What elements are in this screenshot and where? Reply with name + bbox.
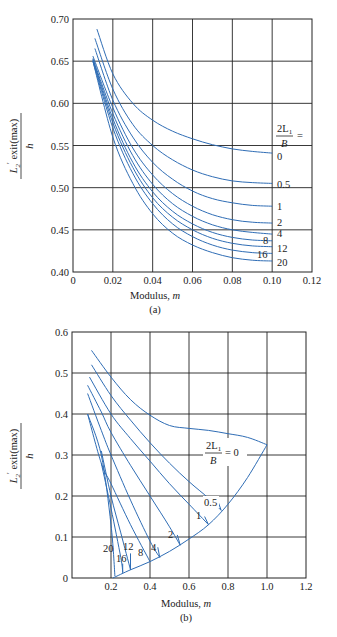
curve-1 [90,377,209,525]
svg-text:L2′ exit(max): L2′ exit(max) [6,428,22,484]
y-tick-label: 0 [63,573,68,584]
curve-label: 4 [151,542,157,553]
x-tick-label: 0.4 [143,581,157,592]
curve-label: 20 [277,257,288,268]
svg-text:= 0: = 0 [225,447,239,458]
y-tick-label: 0.5 [55,368,68,379]
curve-label: 4 [277,228,283,239]
curve-label: 0 [277,151,282,162]
figure: 00.020.040.060.080.100.120.400.450.500.5… [0,0,337,637]
y-tick-label: 0.1 [55,532,68,543]
curve-0 [92,350,268,444]
y-tick-label: 0.65 [51,56,69,67]
y-tick-label: 0.70 [51,14,69,25]
curve-0 [97,29,272,153]
curve-label: 16 [257,249,268,260]
svg-text:2L1: 2L1 [277,123,293,136]
chart-b-caption: (b) [180,612,193,624]
curve-label: 1 [196,510,201,521]
y-tick-label: 0.40 [51,267,69,278]
x-tick-label: 0.06 [183,275,201,286]
y-tick-label: 0.3 [55,450,68,461]
chart-a: 00.020.040.060.080.100.120.400.450.500.5… [6,14,321,316]
x-tick-label: 0.2 [104,581,117,592]
x-tick-label: 0 [70,275,75,286]
svg-text:B: B [210,455,217,466]
x-tick-label: 1.0 [260,581,273,592]
curve-label: 2 [277,217,282,228]
x-tick-label: 0.08 [223,275,241,286]
x-tick-label: 0.8 [221,581,234,592]
chart-a-ylabel: L2′ exit(max) h [6,113,35,179]
y-tick-label: 0.4 [55,409,69,420]
chart-b: 0.20.40.60.81.01.200.10.20.30.40.50.6 L2… [6,327,313,624]
chart-a-caption: (a) [149,304,161,316]
svg-text:L2′ exit(max): L2′ exit(max) [6,118,22,174]
curve-4 [88,394,160,558]
curve-label: 16 [116,553,127,564]
svg-text:=: = [297,130,303,141]
curve-label: 12 [277,243,288,254]
y-tick-label: 0.55 [51,141,69,152]
curve-label: 20 [103,543,114,554]
x-tick-label: 0.10 [263,275,281,286]
x-tick-label: 0.6 [182,581,195,592]
chart-b-grid [72,332,306,578]
svg-text:B: B [281,138,288,149]
chart-a-curve-labels: 0 0.5 1 2 4 8 12 16 20 [257,151,290,268]
chart-b-tick-labels: 0.20.40.60.81.01.200.10.20.30.40.50.6 [55,327,313,592]
curve-label: 12 [123,541,134,552]
x-tick-label: 0.04 [143,275,162,286]
curve-label: 8 [263,235,268,246]
y-tick-label: 0.45 [51,225,69,236]
curve-label: 1 [277,201,282,212]
y-tick-label: 0.50 [51,183,69,194]
curve-0.5 [95,38,272,183]
x-tick-label: 1.2 [299,581,312,592]
curve-label: 0.5 [204,497,217,508]
svg-text:h: h [24,453,35,458]
svg-text:h: h [24,143,35,148]
curve-label: 0.5 [277,179,290,190]
chart-b-ylabel: L2′ exit(max) h [6,423,35,489]
y-tick-label: 0.6 [55,327,68,338]
curve-label: 8 [138,547,143,558]
y-tick-label: 0.2 [55,491,68,502]
x-tick-label: 0.12 [303,275,321,286]
curve-8 [88,414,150,562]
y-tick-label: 0.60 [51,98,69,109]
x-tick-label: 0.02 [104,275,122,286]
chart-b-xlabel: Modulus, m [161,598,212,609]
chart-a-xlabel: Modulus, m [130,290,181,301]
curve-label: 2 [168,529,173,540]
chart-b-legend-title: 2L1 B = 0 [203,438,247,466]
